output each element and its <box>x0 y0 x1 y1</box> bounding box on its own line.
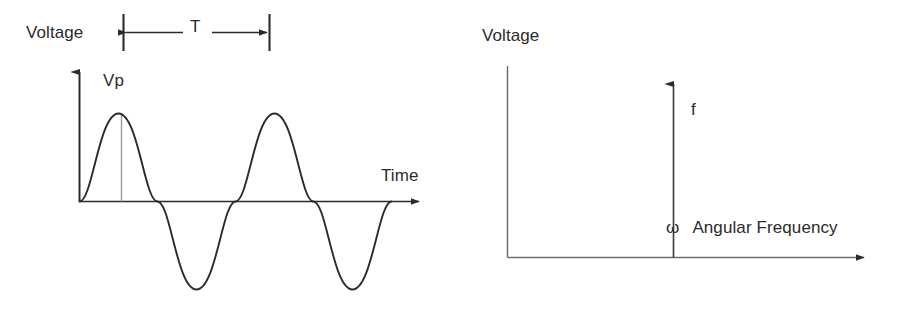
figure-canvas <box>0 0 904 309</box>
time-domain-panel <box>80 14 420 290</box>
peak-voltage-label: Vp <box>103 72 124 89</box>
angular-frequency-text: Angular Frequency <box>692 218 837 237</box>
frequency-domain-y-axis-label: Voltage <box>482 27 539 44</box>
figure-root: Voltage T Vp Time Voltage f ωAngular Fre… <box>0 0 904 309</box>
period-label: T <box>190 18 200 35</box>
time-domain-x-axis-label: Time <box>381 167 419 184</box>
time-domain-y-axis-label: Voltage <box>26 24 83 41</box>
frequency-domain-x-axis-label: ωAngular Frequency <box>666 219 838 236</box>
spectral-line-label: f <box>691 101 696 118</box>
omega-symbol: ω <box>666 218 679 237</box>
